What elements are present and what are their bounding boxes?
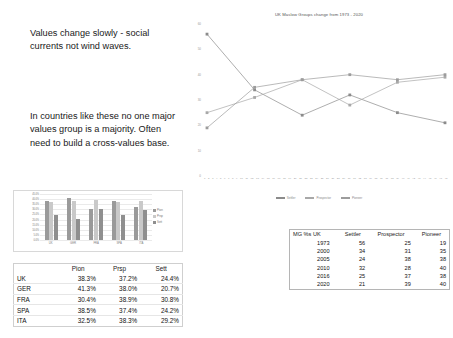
bar-prsp-fra	[94, 200, 98, 240]
line-x-tick-label: 14	[261, 178, 264, 181]
pion-col-header: Pion	[57, 264, 98, 274]
line-x-tick-label: 25	[321, 178, 324, 181]
mg-prospector: 31	[368, 247, 414, 255]
table-row: 2000343135	[290, 247, 450, 255]
table-row: 2020213940	[290, 280, 450, 289]
line-path	[207, 77, 445, 112]
bar-pion-ita	[134, 207, 138, 240]
country-values-table: Pion Prsp Sett UK38.3%37.2%24.4%GER41.3%…	[13, 263, 183, 327]
bar-pion-fra	[89, 209, 93, 240]
sett-value: 24.2%	[140, 305, 182, 316]
mg-settler: 24	[338, 255, 369, 263]
line-x-tick-label: 13	[256, 178, 259, 181]
mg-year: 2020	[290, 280, 338, 289]
line-x-tick-label: 45	[429, 178, 432, 181]
line-x-tick-label: 18	[283, 178, 286, 181]
line-chart-y-axis: 0102030405060	[186, 24, 203, 176]
bar-legend-swatch	[153, 221, 156, 224]
mg-prospector: 38	[368, 255, 414, 263]
data-point-marker	[396, 111, 399, 114]
line-chart-title: UK Maslow Groups change from 1973 - 2020	[186, 12, 452, 17]
line-legend-swatch	[341, 197, 350, 198]
mg-pioneer: 35	[414, 247, 450, 255]
data-point-marker	[348, 104, 351, 107]
line-x-tick-label: 37	[385, 178, 388, 181]
prsp-col-header: Prsp	[99, 264, 140, 274]
sett-value: 29.2%	[140, 315, 182, 326]
line-x-tick-label: 9	[236, 178, 237, 181]
country-col-header	[14, 264, 58, 274]
line-x-tick-label: 5	[220, 178, 221, 181]
line-x-tick-label: 7	[228, 178, 229, 181]
mg-year: 2016	[290, 272, 338, 280]
bar-y-tick-label: 35.0%	[32, 203, 39, 206]
pion-value: 32.5%	[57, 315, 98, 326]
bar-group	[112, 194, 125, 240]
line-y-tick-label: 40	[198, 73, 201, 77]
line-x-tick-label: 17	[278, 178, 281, 181]
table-row: 2010322840	[290, 264, 450, 272]
mg-pioneer-col-header: Pioneer	[414, 230, 450, 239]
line-x-tick-label: 36	[380, 178, 383, 181]
mg-pioneer: 19	[414, 238, 450, 246]
sett-value: 24.4%	[140, 274, 182, 284]
bar-legend-item: Sett	[153, 220, 180, 224]
mg-year-col-header: MG %s UK	[290, 230, 338, 239]
mg-settler: 25	[338, 272, 369, 280]
bar-group	[67, 194, 80, 240]
pion-value: 38.5%	[57, 305, 98, 316]
mg-settler: 56	[338, 238, 369, 246]
line-x-tick-label: 19	[288, 178, 291, 181]
line-x-tick-label: 35	[375, 178, 378, 181]
bar-chart-plot	[40, 194, 152, 240]
mg-table-body: 1973562519200034313520052438382010322840…	[290, 238, 450, 289]
line-chart-svg	[204, 24, 448, 176]
slide-canvas: Values change slowly - social currents n…	[0, 0, 453, 338]
bar-sett-spa	[121, 215, 125, 240]
line-x-tick-label: 32	[358, 178, 361, 181]
bar-prsp-uk	[49, 202, 53, 240]
line-x-tick-label: 41	[407, 178, 410, 181]
mg-prospector: 37	[368, 272, 414, 280]
line-legend-item: Prospector	[305, 196, 331, 200]
bar-chart: 45.0%40.0%35.0%30.0%25.0%20.0%15.0%10.0%…	[13, 190, 183, 252]
table-row: GER41.3%38.0%20.7%	[14, 284, 183, 295]
line-y-tick-label: 10	[198, 149, 201, 153]
line-x-tick-label: 23	[310, 178, 313, 181]
country-name: ITA	[14, 315, 58, 326]
data-point-marker	[444, 76, 447, 79]
text-block-values-change: Values change slowly - social currents n…	[30, 27, 180, 54]
mg-settler: 21	[338, 280, 369, 289]
bar-y-tick-label: 0.0%	[33, 239, 39, 242]
bar-sett-ita	[143, 210, 147, 240]
table-row: 1973562519	[290, 238, 450, 246]
bar-legend-label: Pion	[157, 208, 163, 212]
line-legend-item: Pioneer	[341, 196, 362, 200]
mg-table-head: MG %s UK Settler Prospector Pioneer	[290, 230, 450, 239]
prsp-value: 38.3%	[99, 315, 140, 326]
bar-y-tick-label: 15.0%	[32, 223, 39, 226]
bar-legend-swatch	[153, 209, 156, 212]
bar-sett-uk	[54, 215, 58, 240]
table-row: ITA32.5%38.3%29.2%	[14, 315, 183, 326]
bar-pion-ger	[67, 198, 71, 240]
table-row: UK38.3%37.2%24.4%	[14, 274, 183, 284]
data-point-marker	[396, 78, 399, 81]
country-name: FRA	[14, 294, 58, 305]
line-legend-label: Settler	[287, 196, 296, 200]
bar-prsp-spa	[116, 202, 120, 240]
line-series-prospector	[206, 76, 447, 114]
country-name: GER	[14, 284, 58, 295]
line-x-tick-label: 48	[445, 178, 448, 181]
bar-chart-legend: PionPrspSett	[153, 208, 180, 227]
data-point-marker	[253, 96, 256, 99]
bar-group	[89, 194, 102, 240]
prsp-value: 37.2%	[99, 274, 140, 284]
bar-y-tick-label: 10.0%	[32, 228, 39, 231]
line-x-tick-label: 44	[423, 178, 426, 181]
pion-value: 38.3%	[57, 274, 98, 284]
text-block-countries: In countries like these no one major val…	[30, 110, 180, 150]
country-name: SPA	[14, 305, 58, 316]
line-x-tick-label: 20	[294, 178, 297, 181]
line-chart-legend: SettlerProspectorPioneer	[186, 196, 452, 200]
